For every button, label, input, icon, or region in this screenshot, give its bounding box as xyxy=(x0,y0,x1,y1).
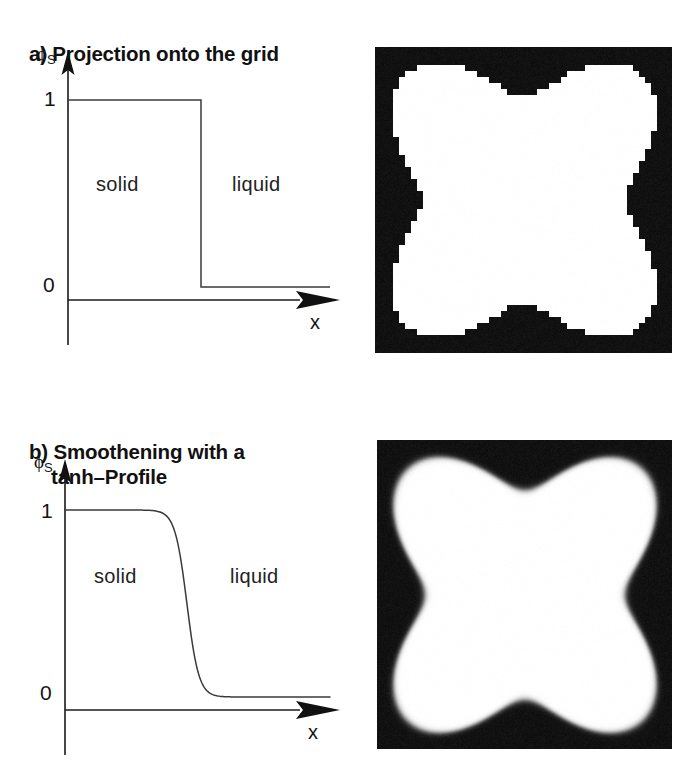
panel-a-x-axis-label: x xyxy=(310,311,320,334)
panel-a-region-liquid: liquid xyxy=(232,173,281,196)
panel-a-y-axis-subscript: S xyxy=(47,52,56,67)
panel-b-image-canvas xyxy=(377,440,672,749)
panel-b-region-solid: solid xyxy=(94,565,137,588)
panel-b-ytick-1: 1 xyxy=(41,499,53,523)
panel-b-plot: ϕS 1 0 solid liquid x xyxy=(0,455,340,755)
panel-a-x-axis-arrow xyxy=(296,291,340,309)
panel-a-ytick-1: 1 xyxy=(44,87,56,111)
panel-a-image xyxy=(375,47,672,353)
panel-a-image-canvas xyxy=(375,47,672,353)
panel-b-region-liquid: liquid xyxy=(230,565,279,588)
panel-b-y-axis-subscript: S xyxy=(44,460,53,475)
panel-b-x-axis-arrow xyxy=(296,701,340,719)
panel-b-y-axis-symbol: ϕS xyxy=(34,451,53,475)
panel-b-tanh-curve xyxy=(65,510,330,697)
panel-a-y-axis-symbol: ϕS xyxy=(37,43,56,67)
panel-a-region-solid: solid xyxy=(96,173,139,196)
panel-a-plot: ϕS 1 0 solid liquid x xyxy=(0,45,340,345)
panel-b-image xyxy=(377,440,672,749)
panel-a-ytick-0: 0 xyxy=(43,273,55,297)
panel-b-ytick-0: 0 xyxy=(40,681,52,705)
figure-root: a) Projection onto the grid ϕS 1 0 solid… xyxy=(0,0,700,761)
panel-b-x-axis-label: x xyxy=(308,721,318,744)
